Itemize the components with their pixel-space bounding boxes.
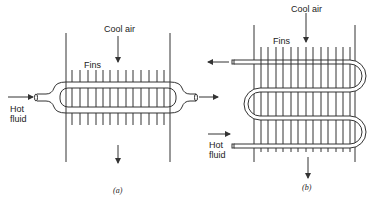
fins-label-b: Fins — [273, 36, 291, 46]
diagram-a: Cool air Fins Hot fluid (a) — [8, 24, 218, 195]
pipe-end-left-a — [35, 94, 38, 101]
fins-top-a — [72, 70, 164, 82]
hot-fluid-label-a-line2: fluid — [10, 114, 27, 124]
caption-b: (b) — [302, 183, 312, 192]
caption-a: (a) — [113, 186, 123, 195]
cool-air-label-b: Cool air — [291, 4, 322, 14]
pipe-end-bottom-b — [232, 144, 234, 148]
fins-label-a: Fins — [84, 60, 102, 70]
hot-fluid-label-b-line1: Hot — [209, 140, 224, 150]
hot-fluid-label-b-line2: fluid — [209, 150, 226, 160]
pipe-end-top-b — [232, 60, 234, 64]
heat-exchanger-diagrams: Cool air Fins Hot fluid (a) — [0, 0, 384, 205]
hot-fluid-label-a-line1: Hot — [10, 104, 25, 114]
fins-through-tube-a — [72, 88, 164, 107]
tube-outer-a — [37, 82, 196, 113]
diagram-b: Cool air Fins Hot fluid (b) — [208, 4, 366, 192]
pipe-end-right-a — [195, 94, 198, 101]
cool-air-label-a: Cool air — [104, 24, 135, 34]
fins-bottom-a — [72, 113, 164, 125]
